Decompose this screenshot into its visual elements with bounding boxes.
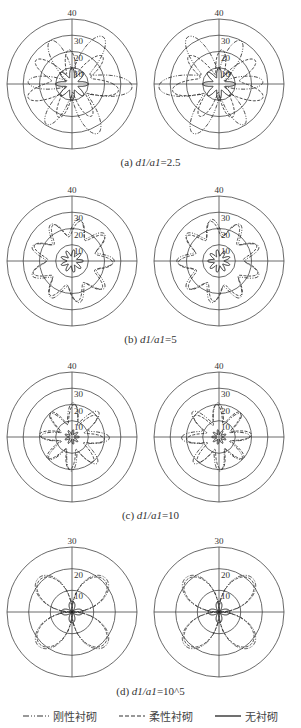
legend-item-flexible: 柔性衬砌 <box>119 708 193 724</box>
caption-c: (c) d1/a1=10 <box>0 509 301 521</box>
svg-text:10: 10 <box>74 422 84 432</box>
svg-text:10: 10 <box>74 591 84 601</box>
caption-d: (d) d1/a1=10^5 <box>0 685 301 697</box>
svg-text:20: 20 <box>74 230 84 240</box>
svg-text:20: 20 <box>74 570 84 580</box>
caption-a: (a) d1/a1=2.5 <box>0 156 301 168</box>
dash-dot-line-icon <box>23 713 49 719</box>
svg-text:30: 30 <box>221 389 231 399</box>
svg-text:30: 30 <box>74 389 84 399</box>
svg-text:30: 30 <box>74 36 84 46</box>
svg-text:40: 40 <box>215 185 225 195</box>
legend-item-unlined: 无衬砌 <box>215 708 278 724</box>
svg-text:10: 10 <box>221 246 231 256</box>
svg-text:10: 10 <box>221 591 231 601</box>
svg-text:40: 40 <box>68 8 78 18</box>
svg-text:30: 30 <box>221 213 231 223</box>
svg-text:40: 40 <box>215 8 225 18</box>
legend-label: 柔性衬砌 <box>149 708 193 724</box>
polar-figure: 1020304010203040102030401020304010203040… <box>0 0 301 728</box>
caption-b: (b) d1/a1=5 <box>0 333 301 345</box>
svg-text:20: 20 <box>74 53 84 63</box>
legend: 刚性衬砌 柔性衬砌 无衬砌 <box>0 707 301 725</box>
svg-text:40: 40 <box>68 361 78 371</box>
svg-text:30: 30 <box>68 536 78 546</box>
svg-text:30: 30 <box>215 536 225 546</box>
svg-text:30: 30 <box>221 36 231 46</box>
svg-text:20: 20 <box>221 406 231 416</box>
svg-text:20: 20 <box>74 406 84 416</box>
legend-item-rigid: 刚性衬砌 <box>23 708 97 724</box>
svg-text:40: 40 <box>68 185 78 195</box>
legend-label: 无衬砌 <box>245 708 278 724</box>
dashed-line-icon <box>119 713 145 719</box>
legend-label: 刚性衬砌 <box>53 708 97 724</box>
solid-line-icon <box>215 713 241 719</box>
svg-text:40: 40 <box>215 361 225 371</box>
svg-text:20: 20 <box>221 570 231 580</box>
